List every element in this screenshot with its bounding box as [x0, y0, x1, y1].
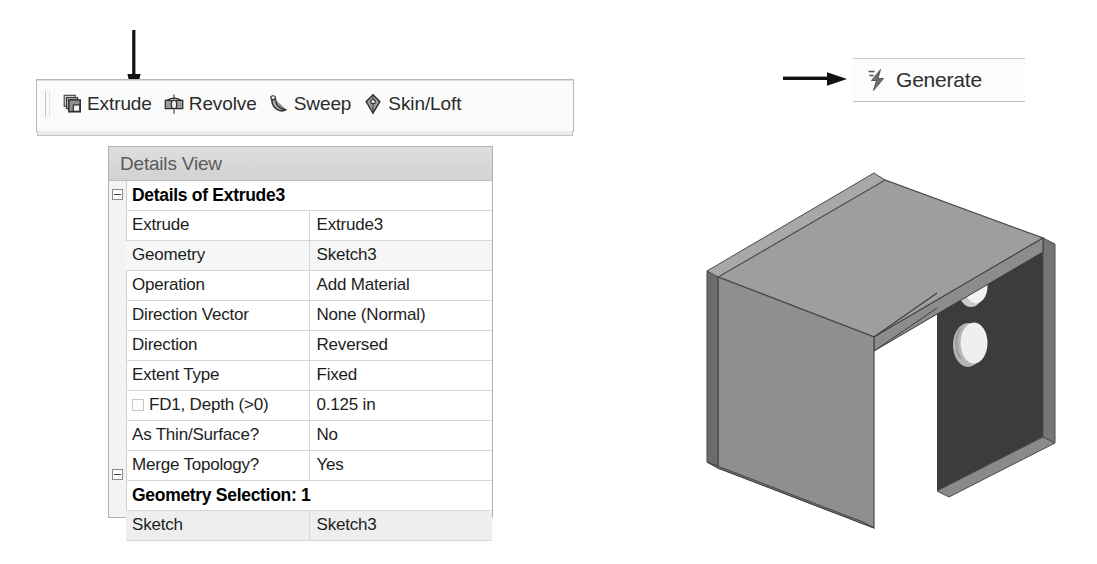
row-value[interactable]: Sketch3	[309, 511, 492, 541]
extrude-icon	[61, 93, 83, 115]
toolbar-button-skin-loft[interactable]: Skin/Loft	[360, 87, 470, 121]
details-view-header: Details View	[109, 147, 492, 181]
row-key: Geometry	[126, 241, 309, 271]
table-row[interactable]: Direction Reversed	[126, 331, 492, 361]
row-key: Direction	[126, 331, 309, 361]
model-viewport[interactable]	[680, 165, 1080, 555]
row-value[interactable]: Add Material	[309, 271, 492, 301]
generate-label: Generate	[896, 68, 982, 92]
row-key: Operation	[126, 271, 309, 301]
row-value[interactable]: No	[309, 421, 492, 451]
generate-button[interactable]: Generate	[853, 58, 1025, 102]
row-key: As Thin/Surface?	[126, 421, 309, 451]
table-group-header-details: Details of Extrude3	[126, 181, 492, 211]
sweep-icon	[268, 93, 290, 115]
toolbar-button-revolve[interactable]: Revolve	[161, 87, 266, 121]
table-row[interactable]: Merge Topology? Yes	[126, 451, 492, 481]
toolbar-label-extrude: Extrude	[87, 93, 152, 115]
lightning-bolt-icon	[867, 68, 889, 92]
details-view-gutter	[109, 181, 127, 517]
row-value[interactable]: Reversed	[309, 331, 492, 361]
row-value[interactable]: Yes	[309, 451, 492, 481]
toolbar-drag-handle[interactable]	[45, 91, 50, 117]
table-row[interactable]: Direction Vector None (Normal)	[126, 301, 492, 331]
toolbar-label-sweep: Sweep	[294, 93, 352, 115]
details-table: Details of Extrude3 Extrude Extrude3 Geo…	[126, 181, 492, 541]
bracket-3d-model	[680, 165, 1080, 555]
row-key: Sketch	[126, 511, 309, 541]
table-row[interactable]: Extent Type Fixed	[126, 361, 492, 391]
table-row[interactable]: Geometry Sketch3	[126, 241, 492, 271]
model-left-flange-thickness	[707, 271, 718, 468]
group-header-label: Details of Extrude3	[126, 181, 492, 211]
table-row[interactable]: As Thin/Surface? No	[126, 421, 492, 451]
row-value[interactable]: None (Normal)	[309, 301, 492, 331]
details-view-panel: Details View Details of Extrude3 Extrude…	[108, 146, 493, 518]
table-row[interactable]: Extrude Extrude3	[126, 211, 492, 241]
group-header-label: Geometry Selection: 1	[126, 481, 492, 511]
row-key-fd1: FD1, Depth (>0)	[126, 391, 309, 421]
toolbar-label-skin-loft: Skin/Loft	[388, 93, 461, 115]
table-row[interactable]: Sketch Sketch3	[126, 511, 492, 541]
row-value[interactable]: 0.125 in	[309, 391, 492, 421]
collapse-toggle-details[interactable]	[112, 189, 123, 200]
revolve-icon	[163, 93, 185, 115]
details-view-title: Details View	[120, 153, 222, 175]
model-right-flange-thickness	[1043, 238, 1055, 443]
row-key: Extrude	[126, 211, 309, 241]
toolbar-button-sweep[interactable]: Sweep	[266, 87, 361, 121]
row-value[interactable]: Sketch3	[309, 241, 492, 271]
fd1-checkbox[interactable]	[132, 399, 144, 411]
generate-pointer-arrow	[783, 70, 847, 88]
toolbar-button-extrude[interactable]: Extrude	[59, 87, 161, 121]
table-row-fd1[interactable]: FD1, Depth (>0) 0.125 in	[126, 391, 492, 421]
row-key: Extent Type	[126, 361, 309, 391]
skin-loft-icon	[362, 93, 384, 115]
table-group-header-geometry-selection: Geometry Selection: 1	[126, 481, 492, 511]
row-value[interactable]: Fixed	[309, 361, 492, 391]
row-key: Direction Vector	[126, 301, 309, 331]
create-toolbar: Extrude Revolve Sweep	[36, 79, 574, 132]
row-key-label: FD1, Depth (>0)	[149, 395, 268, 414]
row-value[interactable]: Extrude3	[309, 211, 492, 241]
row-key: Merge Topology?	[126, 451, 309, 481]
collapse-toggle-geometry-selection[interactable]	[112, 469, 123, 480]
details-view-body: Details of Extrude3 Extrude Extrude3 Geo…	[109, 181, 492, 517]
toolbar-label-revolve: Revolve	[189, 93, 257, 115]
table-row[interactable]: Operation Add Material	[126, 271, 492, 301]
